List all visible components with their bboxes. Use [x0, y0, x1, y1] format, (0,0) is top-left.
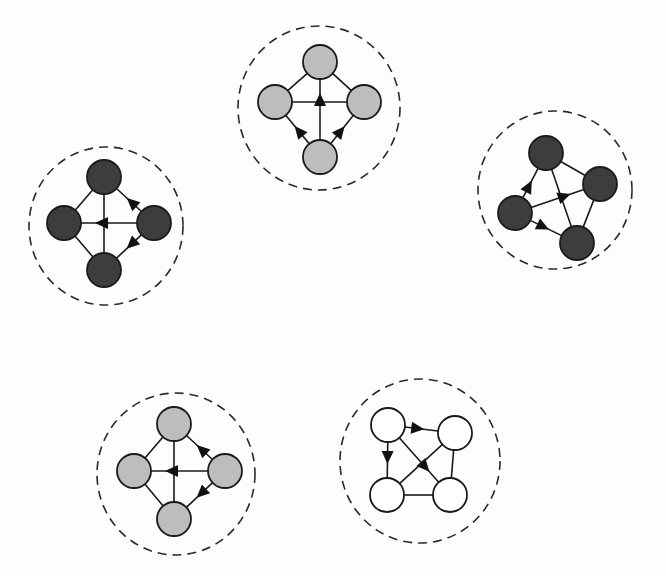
edge-top-left: [75, 190, 93, 210]
arrowhead-icon: [314, 93, 326, 106]
node-left: [258, 85, 292, 119]
node-top: [87, 160, 121, 194]
node-top: [303, 45, 337, 79]
node-bottom: [303, 140, 337, 174]
arrowhead-icon: [332, 126, 345, 140]
cluster-right: [478, 111, 632, 269]
arrowhead-icon: [295, 126, 308, 140]
node-bl: [370, 478, 404, 512]
node-right: [208, 454, 242, 488]
edge-top-left: [288, 73, 308, 90]
directed-edge-left-right: [531, 189, 584, 207]
cluster-bottom-left: [97, 393, 255, 555]
node-bottom: [87, 253, 121, 287]
edge-right-bottom: [583, 200, 594, 227]
node-bottom: [560, 226, 594, 260]
arrowhead-icon: [165, 465, 178, 477]
edge-tr-bl: [400, 444, 443, 483]
node-right: [137, 206, 171, 240]
cluster-top: [238, 26, 400, 190]
edge-top-left: [145, 437, 163, 458]
edge-left-bottom: [75, 236, 93, 257]
node-right: [347, 85, 381, 119]
directed-edge-tl-br: [399, 438, 438, 483]
graph-clusters-diagram: [0, 0, 666, 576]
arrowhead-icon: [95, 217, 108, 229]
arrowhead-icon: [382, 451, 394, 464]
node-left: [117, 454, 151, 488]
node-left: [498, 196, 532, 230]
node-br: [433, 478, 467, 512]
node-right: [583, 167, 617, 201]
edge-top-right: [333, 73, 352, 90]
node-top: [529, 136, 563, 170]
cluster-bottom-right: [340, 379, 500, 543]
edge-left-bottom: [145, 484, 163, 506]
node-bottom: [157, 502, 191, 536]
edge-top-right: [561, 161, 586, 175]
node-top: [157, 407, 191, 441]
node-left: [47, 206, 81, 240]
edge-tr-br: [451, 450, 453, 478]
arrowhead-icon: [411, 422, 425, 434]
node-tl: [371, 408, 405, 442]
node-tr: [438, 416, 472, 450]
cluster-left: [29, 147, 183, 305]
